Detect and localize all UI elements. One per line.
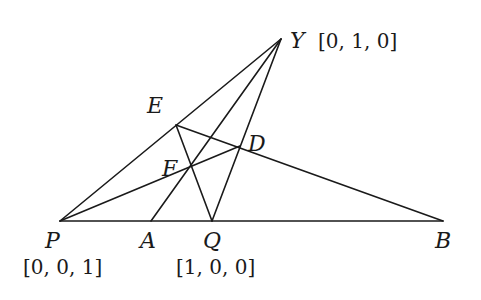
segment-p-d	[60, 146, 240, 221]
point-label-b: B	[434, 228, 451, 253]
point-label-a: A	[138, 228, 156, 253]
coords-label-q: [1, 0, 0]	[176, 255, 255, 279]
point-label-q: Q	[203, 228, 221, 253]
segment-y-q	[212, 39, 281, 221]
coords-label-p: [0, 0, 1]	[23, 255, 102, 279]
segments-group	[60, 39, 443, 221]
point-label-d: D	[247, 131, 266, 156]
segment-e-b	[176, 125, 443, 221]
segment-e-q	[176, 125, 212, 221]
geometry-diagram: Y [0, 1, 0] E D F P [0, 0, 1] A Q [1, 0,…	[0, 0, 481, 300]
coords-label-y: [0, 1, 0]	[318, 29, 397, 53]
point-label-p: P	[44, 228, 61, 253]
point-label-f: F	[161, 156, 178, 181]
point-label-y: Y	[290, 28, 307, 53]
point-label-e: E	[146, 93, 163, 118]
